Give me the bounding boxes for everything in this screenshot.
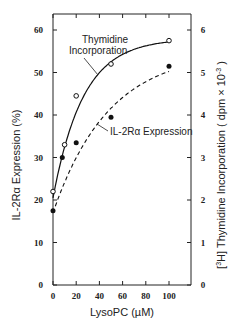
thymidine-point bbox=[51, 189, 56, 194]
annotation-thymidine-pointer bbox=[84, 58, 98, 75]
left-y-axis-title: IL-2Rα Expression (%) bbox=[10, 110, 22, 221]
thymidine-point bbox=[167, 38, 172, 43]
left-tick-label: 60 bbox=[34, 25, 44, 35]
right-tick-label: 4 bbox=[201, 110, 206, 120]
x-tick-label: 80 bbox=[141, 291, 151, 301]
annotation-il2r-pointer bbox=[97, 124, 108, 131]
il2r-point bbox=[167, 64, 172, 69]
right-tick-label: 0 bbox=[201, 280, 206, 290]
il2r-point bbox=[109, 115, 114, 120]
right-y-axis-title: [3H] Thymidine Incorporation ( dpm × 10-… bbox=[215, 61, 227, 269]
il2r-curve bbox=[53, 71, 169, 212]
left-tick-label: 30 bbox=[34, 153, 44, 163]
right-y-axis: 0123456 bbox=[187, 25, 206, 290]
left-tick-label: 10 bbox=[34, 238, 44, 248]
right-tick-label: 1 bbox=[201, 238, 206, 248]
thymidine-point bbox=[109, 62, 114, 67]
annotation-thymidine-line1: Thymidine bbox=[82, 34, 129, 45]
thymidine-point bbox=[62, 142, 67, 147]
right-tick-label: 6 bbox=[201, 25, 206, 35]
x-tick-label: 0 bbox=[51, 291, 56, 301]
x-tick-label: 100 bbox=[162, 291, 176, 301]
il2r-point bbox=[51, 208, 56, 213]
right-tick-label: 2 bbox=[201, 195, 206, 205]
x-tick-label: 20 bbox=[72, 291, 82, 301]
left-y-axis: 0102030405060 bbox=[34, 25, 57, 290]
chart: 0102030405060 0123456 020406080100 Thymi… bbox=[0, 0, 243, 329]
il2r-point bbox=[74, 140, 79, 145]
x-tick-label: 60 bbox=[118, 291, 128, 301]
right-tick-label: 3 bbox=[201, 153, 206, 163]
annotation-il2r: IL-2Rα Expression bbox=[110, 126, 192, 137]
left-tick-label: 20 bbox=[34, 195, 44, 205]
annotation-thymidine-line2: Incorporation bbox=[69, 45, 127, 56]
x-axis: 020406080100 bbox=[51, 281, 177, 301]
x-tick-label: 40 bbox=[95, 291, 105, 301]
left-tick-label: 0 bbox=[39, 280, 44, 290]
il2r-points bbox=[51, 64, 172, 214]
right-tick-label: 5 bbox=[201, 68, 206, 78]
top-axis-ticks bbox=[53, 14, 169, 18]
thymidine-point bbox=[74, 94, 79, 99]
left-tick-label: 50 bbox=[34, 68, 44, 78]
il2r-point bbox=[60, 155, 65, 160]
x-axis-title: LysoPC (µM) bbox=[90, 306, 154, 318]
left-tick-label: 40 bbox=[34, 110, 44, 120]
